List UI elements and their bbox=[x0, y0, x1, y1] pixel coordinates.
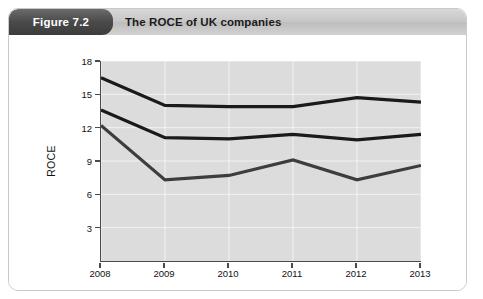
figure-number-label: Figure 7.2 bbox=[33, 16, 89, 28]
x-tick-label: 2013 bbox=[400, 268, 440, 279]
x-tick-mark bbox=[227, 263, 229, 268]
series-line-1 bbox=[101, 110, 421, 140]
y-axis-title: ROCE bbox=[45, 145, 57, 177]
x-tick-label: 2011 bbox=[272, 268, 312, 279]
x-tick-mark bbox=[163, 263, 165, 268]
y-tick-label: 15 bbox=[70, 89, 92, 100]
x-tick-mark bbox=[291, 263, 293, 268]
x-tick-mark bbox=[355, 263, 357, 268]
y-tick-label: 6 bbox=[70, 189, 92, 200]
screenshot-root: Figure 7.2 The ROCE of UK companies ROCE… bbox=[0, 0, 483, 299]
y-tick-label: 3 bbox=[70, 222, 92, 233]
x-tick-label: 2012 bbox=[336, 268, 376, 279]
series-line-0 bbox=[101, 78, 421, 107]
figure-body: ROCE 369121518 200820092010201120122013 … bbox=[9, 35, 466, 290]
x-tick-mark bbox=[99, 263, 101, 268]
figure-card: Figure 7.2 The ROCE of UK companies ROCE… bbox=[8, 8, 467, 291]
figure-header: Figure 7.2 The ROCE of UK companies bbox=[9, 9, 466, 35]
figure-title: The ROCE of UK companies bbox=[125, 9, 281, 35]
series-line-2 bbox=[101, 125, 421, 179]
plot-area bbox=[100, 61, 421, 262]
y-tick-label: 9 bbox=[70, 156, 92, 167]
plot-series-lines bbox=[101, 61, 421, 261]
x-tick-label: 2010 bbox=[208, 268, 248, 279]
x-tick-label: 2008 bbox=[80, 268, 120, 279]
figure-number-badge: Figure 7.2 bbox=[9, 9, 113, 35]
x-tick-label: 2009 bbox=[144, 268, 184, 279]
x-tick-mark bbox=[419, 263, 421, 268]
y-tick-label: 18 bbox=[70, 56, 92, 67]
y-tick-label: 12 bbox=[70, 122, 92, 133]
